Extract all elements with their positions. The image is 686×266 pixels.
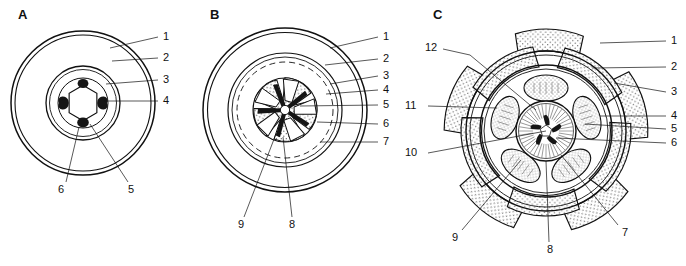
callout-b-1: 1 bbox=[383, 31, 389, 42]
callout-b-4: 4 bbox=[383, 84, 389, 95]
callout-c-2: 2 bbox=[671, 61, 677, 72]
callout-a-5: 5 bbox=[128, 184, 134, 195]
callout-a-1: 1 bbox=[163, 31, 169, 42]
callout-c-3: 3 bbox=[671, 86, 677, 97]
callout-b-6: 6 bbox=[383, 118, 389, 129]
callout-c-9: 9 bbox=[452, 232, 458, 243]
callout-a-3: 3 bbox=[163, 74, 169, 85]
callout-c-1: 1 bbox=[671, 35, 677, 46]
callout-c-4: 4 bbox=[671, 110, 677, 121]
callout-c-10: 10 bbox=[405, 147, 417, 158]
diagram-svg bbox=[0, 0, 686, 266]
callout-a-2: 2 bbox=[163, 52, 169, 63]
callout-b-8: 8 bbox=[289, 219, 295, 230]
callout-a-4: 4 bbox=[163, 95, 169, 106]
callout-c-12: 12 bbox=[425, 42, 437, 53]
callout-a-6: 6 bbox=[58, 184, 64, 195]
figure-canvas: A B C 1 2 3 4 5 6 1 2 3 4 5 6 7 8 9 1 2 … bbox=[0, 0, 686, 266]
callout-c-5: 5 bbox=[671, 123, 677, 134]
panel-letter-c: C bbox=[433, 8, 442, 21]
callout-c-7: 7 bbox=[622, 227, 628, 238]
callout-b-3: 3 bbox=[383, 70, 389, 81]
panel-letter-b: B bbox=[210, 8, 219, 21]
callout-b-5: 5 bbox=[383, 99, 389, 110]
callout-c-11: 11 bbox=[405, 100, 416, 111]
callout-b-2: 2 bbox=[383, 53, 389, 64]
callout-b-7: 7 bbox=[383, 136, 389, 147]
callout-b-9: 9 bbox=[238, 219, 244, 230]
callout-c-8: 8 bbox=[547, 244, 553, 255]
callout-c-6: 6 bbox=[671, 137, 677, 148]
panel-letter-a: A bbox=[18, 8, 27, 21]
